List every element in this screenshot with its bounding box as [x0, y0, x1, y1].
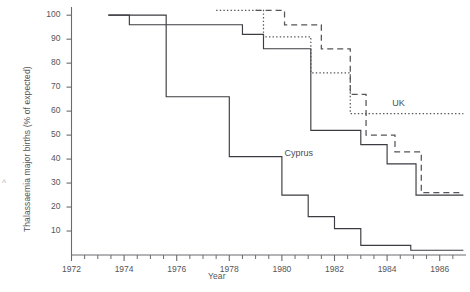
series-path-1	[108, 15, 463, 195]
axes	[67, 7, 467, 261]
y-tick-label: 100	[39, 9, 61, 19]
series-path-2	[216, 10, 463, 113]
series-annotation-cyprus: Cyprus	[285, 148, 314, 158]
series-layer	[108, 10, 463, 250]
y-axis-title: Thalassaemia major births (% of expected…	[22, 66, 32, 232]
y-tick-label: 30	[39, 177, 61, 187]
y-tick-label: 80	[39, 57, 61, 67]
y-tick-label: 60	[39, 105, 61, 115]
series-annotation-uk: UK	[392, 98, 405, 108]
chart-figure: Thalassaemia major births (% of expected…	[0, 0, 470, 292]
y-tick-label: 50	[39, 129, 61, 139]
y-tick-label: 90	[39, 33, 61, 43]
y-tick-label: 70	[39, 81, 61, 91]
x-tick-label: 1978	[212, 264, 246, 274]
series-path-0	[108, 15, 463, 250]
plot-area	[0, 0, 470, 292]
stray-mark: ^	[2, 178, 6, 188]
x-tick-label: 1986	[423, 264, 457, 274]
x-tick-label: 1980	[265, 264, 299, 274]
x-tick-label: 1976	[160, 264, 194, 274]
x-tick-label: 1974	[107, 264, 141, 274]
y-tick-label: 40	[39, 153, 61, 163]
x-tick-label: 1982	[318, 264, 352, 274]
y-tick-label: 10	[39, 225, 61, 235]
x-tick-label: 1984	[370, 264, 404, 274]
series-path-3	[256, 10, 464, 192]
x-tick-label: 1972	[55, 264, 89, 274]
y-tick-label: 20	[39, 201, 61, 211]
